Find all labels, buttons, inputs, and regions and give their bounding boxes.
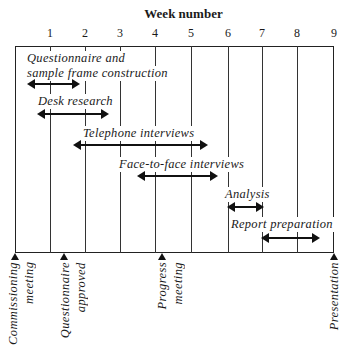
task-bar-analysis [229, 206, 262, 208]
milestone-questionnaire-line2: approved [74, 262, 88, 312]
week-tick-5: 5 [188, 26, 194, 41]
milestone-presentation-line1: Presentation [327, 262, 341, 330]
gridline-week-6 [228, 46, 229, 253]
milestone-progress-line1: Progress [155, 262, 169, 309]
milestone-label-questionnaire-approved: Questionnaire approved [57, 262, 89, 338]
week-tick-2: 2 [82, 26, 88, 41]
task-label-desk-research: Desk research [37, 94, 114, 109]
task-label-report-preparation: Report preparation [230, 217, 334, 232]
week-tick-8: 8 [294, 26, 300, 41]
milestone-marker-questionnaire-approved [60, 253, 68, 260]
task-label-telephone-interviews: Telephone interviews [82, 126, 195, 141]
milestone-label-commissioning: Commissioning meeting [5, 262, 37, 345]
week-tick-6: 6 [225, 26, 231, 41]
week-tick-3: 3 [117, 26, 123, 41]
task-bar-desk-research [39, 113, 107, 115]
task-label-face-to-face-interviews: Face-to-face interviews [118, 157, 245, 172]
task-bar-questionnaire [29, 83, 78, 85]
milestone-marker-commissioning [11, 253, 19, 260]
week-tick-4: 4 [152, 26, 158, 41]
task-label-analysis: Analysis [224, 187, 271, 202]
task-label-questionnaire-line1: Questionnaire and [26, 51, 126, 66]
week-tick-7: 7 [259, 26, 265, 41]
task-bar-telephone-interviews [75, 144, 206, 146]
chart-title: Week number [0, 6, 347, 22]
milestone-marker-presentation [330, 253, 338, 260]
milestone-label-presentation: Presentation [326, 262, 342, 330]
week-tick-1: 1 [47, 26, 53, 41]
milestone-progress-line2: meeting [171, 262, 185, 304]
gridline-week-5 [191, 46, 192, 253]
task-bar-report-preparation [263, 237, 318, 239]
task-label-questionnaire-line2: sample frame construction [26, 66, 169, 81]
milestone-questionnaire-line1: Questionnaire [58, 262, 72, 338]
milestone-label-progress-meeting: Progress meeting [154, 262, 186, 309]
milestone-marker-progress-meeting [158, 253, 166, 260]
milestone-commissioning-line2: meeting [22, 262, 36, 304]
task-bar-face-to-face-interviews [139, 175, 216, 177]
milestone-commissioning-line1: Commissioning [6, 262, 20, 345]
week-tick-9: 9 [331, 26, 337, 41]
